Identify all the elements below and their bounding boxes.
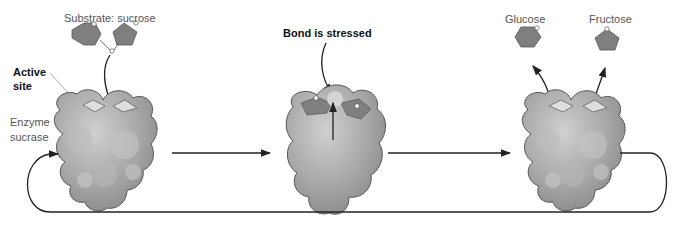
sucrose-molecule-icon <box>72 21 138 53</box>
enzyme-label-line2: sucrase <box>10 131 49 143</box>
enzyme-label-line1: Enzyme <box>10 116 50 128</box>
glucose-label: Glucose <box>505 13 545 25</box>
enzyme-sucrase-stage3-icon <box>522 90 625 211</box>
substrate-label: Substrate: sucrose <box>64 12 156 24</box>
fructose-label: Fructose <box>589 13 632 25</box>
glucose-molecule-icon <box>515 26 541 47</box>
enzyme-sucrase-stage1-icon <box>54 90 157 211</box>
enzyme-substrate-complex-icon <box>286 85 385 214</box>
fructose-molecule-icon <box>595 27 619 50</box>
bond-stressed-label: Bond is stressed <box>283 27 372 39</box>
active-site-label-line1: Active <box>13 66 46 78</box>
active-site-label-line2: site <box>13 80 32 92</box>
